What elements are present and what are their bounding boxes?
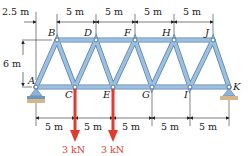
dim-bottom-2: 5 m [84,121,102,132]
dim-top-3: 5 m [144,6,162,17]
load-label-C: 3 kN [62,144,85,155]
dim-top-4: 5 m [183,6,201,17]
dim-offset-left: 2.5 m [2,6,29,17]
dim-bottom-1: 5 m [45,121,63,132]
dim-top-1: 5 m [66,6,84,17]
truss-diagram: 2.5 m 5 m 5 m 5 m 5 m 6 m [0,0,249,156]
node-label-F: F [123,27,132,38]
dim-height: 6 m [3,58,21,69]
truss-members [36,40,229,87]
dim-bottom-3: 5 m [122,121,140,132]
node-label-H: H [161,27,171,38]
node-label-G: G [142,89,150,100]
node-label-A: A [27,75,35,86]
dim-bottom-5: 5 m [199,121,217,132]
pin-support-A [27,88,45,103]
node-label-C: C [65,89,73,100]
dim-top-2: 5 m [105,6,123,17]
node-label-E: E [102,89,111,100]
node-label-D: D [83,27,92,38]
load-label-E: 3 kN [101,144,124,155]
node-label-J: J [203,27,210,38]
node-label-K: K [232,81,241,92]
node-label-I: I [183,89,189,100]
dim-bottom-4: 5 m [161,121,179,132]
node-label-B: B [47,27,55,38]
